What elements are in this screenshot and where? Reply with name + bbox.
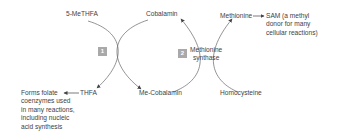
enzyme-methionine-synthase: Methionine synthase xyxy=(190,46,222,63)
node-5-methf: 5-MeTHFA xyxy=(66,10,98,18)
node-me-cobalamin: Me-Cobalamin xyxy=(139,89,182,97)
node-thfa: THFA xyxy=(80,89,97,97)
node-sam: SAM (a methyl donor for many cellular re… xyxy=(266,12,318,37)
node-cobalamin: Cobalamin xyxy=(146,10,178,18)
reaction-badge-2: 2 xyxy=(178,49,187,58)
reaction-badge-1: 1 xyxy=(98,47,107,56)
node-methionine: Methionine xyxy=(220,12,252,20)
node-homocysteine: Homocysteine xyxy=(220,89,262,97)
node-folate-coenzymes: Forms folate coenzymes used in many reac… xyxy=(21,89,75,131)
edge-cobalamin-to-mecobalamin xyxy=(117,20,148,89)
